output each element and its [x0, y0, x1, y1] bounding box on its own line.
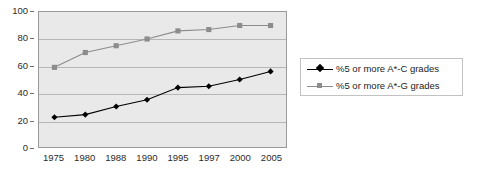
data-point-marker — [113, 103, 119, 109]
data-point-marker — [144, 36, 149, 41]
data-point-marker — [83, 50, 88, 55]
x-tick-label: 1975 — [43, 152, 64, 163]
data-point-marker — [51, 114, 57, 120]
data-point-marker — [237, 23, 242, 28]
x-tick-label: 1988 — [105, 152, 126, 163]
data-point-marker — [175, 28, 180, 33]
x-tick-label: 1980 — [74, 152, 95, 163]
data-point-marker — [206, 27, 211, 32]
y-tick-label: 20 — [17, 116, 28, 126]
y-tick-label: 100 — [12, 6, 28, 16]
data-point-marker — [206, 83, 212, 89]
legend-label-series-0: %5 or more A*-C grades — [336, 63, 439, 75]
y-tick-label: 0 — [23, 143, 28, 153]
series-line-1 — [54, 26, 270, 68]
y-tick-mark — [30, 148, 34, 149]
data-point-marker — [268, 23, 273, 28]
series-group-0 — [51, 68, 273, 120]
x-tick-label: 1997 — [199, 152, 220, 163]
y-tick-mark — [30, 38, 34, 39]
y-axis: 020406080100 — [0, 0, 34, 182]
y-tick-label: 60 — [17, 61, 28, 71]
x-axis: 19751980198819901995199720002005 — [38, 152, 287, 168]
legend-marker-diamond-icon — [307, 63, 333, 75]
plot-series-svg — [39, 12, 286, 147]
data-point-marker — [114, 43, 119, 48]
legend-item-series-1[interactable]: %5 or more A*-G grades — [307, 79, 440, 93]
data-point-marker — [237, 76, 243, 82]
y-tick-mark — [30, 121, 34, 122]
y-tick-label: 80 — [17, 33, 28, 43]
data-point-marker — [267, 68, 273, 74]
x-tick-label: 1995 — [167, 152, 188, 163]
x-tick-label: 2005 — [261, 152, 282, 163]
series-group-1 — [52, 23, 273, 70]
x-tick-label: 1990 — [136, 152, 157, 163]
legend-marker-square-icon — [307, 80, 333, 92]
y-tick-mark — [30, 93, 34, 94]
x-tick-label: 2000 — [230, 152, 251, 163]
legend-label-series-1: %5 or more A*-G grades — [336, 80, 440, 92]
chart-figure: 020406080100 197519801988199019951997200… — [0, 0, 479, 182]
data-point-marker — [175, 85, 181, 91]
y-tick-mark — [30, 11, 34, 12]
plot-area — [38, 11, 287, 148]
legend-item-series-0[interactable]: %5 or more A*-C grades — [307, 62, 439, 76]
y-tick-label: 40 — [17, 88, 28, 98]
y-tick-mark — [30, 66, 34, 67]
data-point-marker — [82, 112, 88, 118]
data-point-marker — [144, 97, 150, 103]
data-point-marker — [52, 65, 57, 70]
chart-legend: %5 or more A*-C grades %5 or more A*-G g… — [300, 58, 463, 96]
